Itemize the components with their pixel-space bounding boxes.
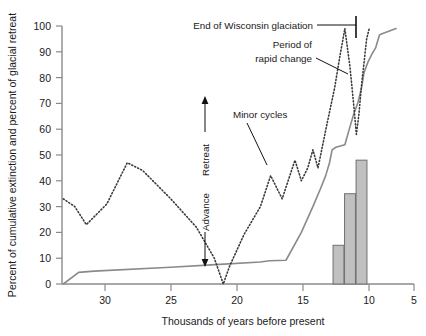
annotation-period-of-rapid-change-line2: rapid change bbox=[255, 53, 312, 64]
annotation-end-of-wisconsin-glaciation-label: End of Wisconsin glaciation bbox=[193, 20, 313, 31]
x-tick-label-20: 20 bbox=[231, 294, 243, 306]
retreat-label: Retreat bbox=[200, 144, 211, 176]
retreat-arrow-head bbox=[202, 96, 209, 104]
y-tick-label-40: 40 bbox=[39, 175, 51, 187]
y-axis-title: Percent of cumulative extinction and per… bbox=[6, 13, 18, 297]
advance-label: Advance bbox=[200, 192, 211, 231]
y-axis-ticks bbox=[56, 26, 62, 284]
annotation-leader-line-rapid-change bbox=[316, 58, 348, 74]
x-tick-label-10: 10 bbox=[363, 294, 375, 306]
y-tick-label-30: 30 bbox=[39, 201, 51, 213]
y-tick-label-100: 100 bbox=[33, 20, 51, 32]
annotation-period-of-rapid-change: Period of rapid change bbox=[255, 39, 348, 74]
annotation-minor-cycles-label: Minor cycles bbox=[233, 109, 288, 120]
chart-canvas: 100 90 80 70 60 50 40 30 20 10 0 30 25 2… bbox=[0, 0, 426, 336]
annotation-leader-line-minor-cycles bbox=[247, 123, 267, 165]
x-tick-label-15: 15 bbox=[297, 294, 309, 306]
retreat-advance-arrow-group: Retreat Advance bbox=[200, 96, 211, 267]
y-tick-label-10: 10 bbox=[39, 252, 51, 264]
y-tick-label-0: 0 bbox=[45, 278, 51, 290]
bar-0 bbox=[333, 245, 344, 284]
bar-1 bbox=[345, 194, 356, 284]
x-tick-label-30: 30 bbox=[99, 294, 111, 306]
y-axis-tick-labels: 100 90 80 70 60 50 40 30 20 10 0 bbox=[33, 20, 51, 290]
annotation-end-of-wisconsin-glaciation: End of Wisconsin glaciation bbox=[193, 16, 356, 38]
bars-group bbox=[333, 160, 367, 284]
x-tick-label-5: 5 bbox=[411, 294, 417, 306]
x-axis-tick-labels: 30 25 20 15 10 5 bbox=[99, 294, 417, 306]
y-tick-label-50: 50 bbox=[39, 149, 51, 161]
y-tick-label-60: 60 bbox=[39, 123, 51, 135]
x-axis-ticks bbox=[105, 284, 414, 291]
y-tick-label-20: 20 bbox=[39, 226, 51, 238]
series-glacial-retreat-line bbox=[63, 29, 369, 284]
y-tick-label-90: 90 bbox=[39, 46, 51, 58]
bar-2 bbox=[356, 160, 367, 284]
y-tick-label-80: 80 bbox=[39, 72, 51, 84]
x-axis-title: Thousands of years before present bbox=[162, 315, 325, 327]
annotation-minor-cycles: Minor cycles bbox=[233, 109, 288, 165]
glacial-retreat-extinction-chart: 100 90 80 70 60 50 40 30 20 10 0 30 25 2… bbox=[0, 0, 426, 336]
x-tick-label-25: 25 bbox=[165, 294, 177, 306]
y-tick-label-70: 70 bbox=[39, 97, 51, 109]
annotation-period-of-rapid-change-line1: Period of bbox=[273, 39, 312, 50]
